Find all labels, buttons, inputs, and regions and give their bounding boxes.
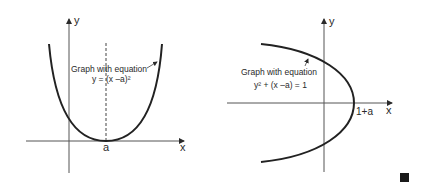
right-leader-arrow [305,59,308,66]
end-of-proof-square [400,173,409,182]
left-caption-line2: y = (x –a)² [92,74,131,84]
right-x-label: x [386,104,392,116]
left-vertex-label: a [103,141,110,153]
diagram-canvas: y x a Graph with equation y = (x –a)² y … [0,0,421,186]
left-leader-arrow [147,62,157,68]
left-graph: y x a Graph with equation y = (x –a)² [26,14,186,173]
right-caption-line2: y² + (x –a) = 1 [254,80,307,90]
right-caption-line1: Graph with equation [241,67,317,77]
left-x-label: x [180,141,186,153]
left-caption-line1: Graph with equation [71,64,147,74]
right-vertex-label: 1+a [356,106,373,117]
right-graph: y x 1+a Graph with equation y² + (x –a) … [227,15,392,172]
right-y-label: y [329,15,335,27]
left-y-label: y [74,14,80,26]
